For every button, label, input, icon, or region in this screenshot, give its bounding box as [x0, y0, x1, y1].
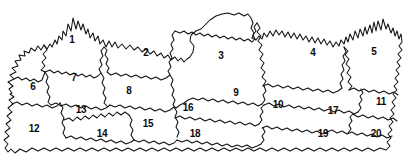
region-label-9: 9: [233, 88, 238, 98]
region-label-20: 20: [371, 129, 382, 139]
region-label-8: 8: [126, 86, 131, 96]
region-label-7: 7: [71, 73, 76, 83]
region-label-13: 13: [76, 105, 87, 115]
region-label-10: 10: [273, 100, 284, 110]
region-label-18: 18: [190, 129, 201, 139]
region-map-drawing: [0, 0, 407, 165]
region-label-3: 3: [218, 51, 223, 61]
region-label-14: 14: [97, 129, 108, 139]
region-label-4: 4: [310, 48, 315, 58]
region-label-1: 1: [69, 35, 74, 45]
region-label-16: 16: [183, 103, 194, 113]
region-label-15: 15: [143, 119, 154, 129]
region-label-5: 5: [371, 47, 376, 57]
region-label-12: 12: [29, 124, 40, 134]
region-label-6: 6: [30, 82, 35, 92]
region-label-11: 11: [376, 97, 386, 107]
region-map-figure: 1 2 3 4 5 6 7 8 9 10 11 12 13 14 15 16 1…: [0, 0, 407, 165]
region-label-17: 17: [328, 106, 339, 116]
region-label-19: 19: [318, 129, 329, 139]
region-label-2: 2: [143, 48, 148, 58]
